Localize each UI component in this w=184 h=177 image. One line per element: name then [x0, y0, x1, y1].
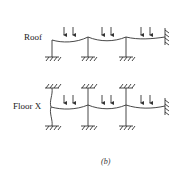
roof-fixed-support-icon [45, 57, 61, 61]
floor-top-fixed-support-icon [81, 84, 97, 88]
floor-top-fixed-support-icon [45, 84, 61, 88]
frame-diagram [0, 0, 184, 177]
floor-bottom-fixed-support-icon [45, 126, 61, 130]
roof-label: Roof [24, 32, 42, 42]
roof-load-arrows-icon [64, 27, 150, 35]
roof-beam [52, 37, 165, 42]
roof-wall-support-icon [165, 28, 169, 45]
floor-load-arrows-icon [64, 95, 150, 103]
floor-x-label: Floor X [13, 101, 41, 111]
floor-bottom-fixed-support-icon [81, 126, 97, 130]
floor-beam [51, 105, 165, 109]
floor-x-frame [45, 84, 169, 130]
figure-caption: (b) [101, 157, 110, 166]
roof-frame [45, 27, 169, 61]
roof-fixed-support-icon [119, 57, 135, 61]
floor-wall-support-icon [165, 98, 169, 115]
floor-top-fixed-support-icon [119, 84, 135, 88]
roof-fixed-support-icon [81, 57, 97, 61]
floor-bottom-fixed-support-icon [119, 126, 135, 130]
